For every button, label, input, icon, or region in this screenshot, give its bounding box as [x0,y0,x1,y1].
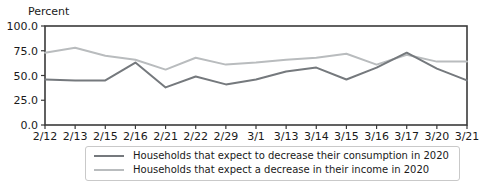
x-tick-label: 3/15 [334,130,359,143]
legend-label: Households that expect to decrease their… [133,149,449,163]
x-tick-label: 2/16 [123,130,148,143]
legend-item: Households that expect to decrease their… [94,149,449,163]
x-tick-label: 3/20 [425,130,450,143]
y-tick-label: 75.0 [14,45,39,58]
x-tick-label: 3/21 [455,130,480,143]
x-tick-label: 2/29 [214,130,239,143]
x-tick-label: 2/22 [183,130,208,143]
legend-item: Households that expect a decrease in the… [94,163,449,177]
x-tick-label: 3/16 [364,130,389,143]
x-tick-label: 2/15 [93,130,118,143]
plot-frame [45,26,467,125]
y-tick-label: 25.0 [14,94,39,107]
series-line [45,53,467,88]
legend-swatch [94,155,124,157]
chart-panel: Percent 0.025.050.075.0100.02/122/132/15… [0,0,489,192]
x-tick-label: 2/21 [153,130,178,143]
x-tick-label: 3/1 [247,130,265,143]
x-tick-label: 3/17 [394,130,419,143]
x-tick-label: 2/12 [33,130,58,143]
y-tick-label: 50.0 [14,70,39,83]
chart-legend: Households that expect to decrease their… [85,146,460,181]
x-tick-label: 3/14 [304,130,329,143]
x-tick-label: 2/13 [63,130,88,143]
series-line [45,48,467,70]
legend-swatch [94,169,124,171]
x-tick-label: 3/13 [274,130,299,143]
y-tick-label: 100.0 [7,20,39,33]
line-chart: Percent 0.025.050.075.0100.02/122/132/15… [0,0,489,145]
legend-label: Households that expect a decrease in the… [133,163,429,177]
y-axis-title: Percent [28,5,70,18]
